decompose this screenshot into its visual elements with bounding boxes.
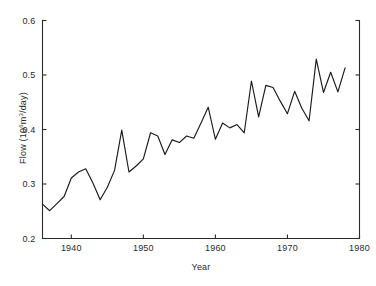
x-tick-label: 1970 [277, 243, 298, 253]
svg-text:Flow (106m3/day): Flow (106m3/day) [18, 92, 28, 164]
y-tick-label: 0.2 [22, 234, 35, 244]
y-axis-title-middle: m [18, 117, 28, 125]
y-axis-title: Flow (106m3/day) [18, 92, 28, 164]
chart-figure: 0.20.30.40.50.6 19401950196019701980 Flo… [0, 0, 376, 286]
x-axis-title: Year [192, 262, 211, 272]
y-axis-ticks-right [356, 21, 360, 239]
x-tick-label: 1940 [61, 243, 82, 253]
x-axis-ticks [71, 235, 359, 239]
y-tick-label: 0.3 [22, 179, 35, 189]
flow-series-line [43, 59, 346, 211]
y-tick-label: 0.6 [22, 16, 35, 26]
y-axis-title-prefix: Flow (10 [18, 128, 28, 164]
line-chart: 0.20.30.40.50.6 19401950196019701980 Flo… [0, 0, 376, 286]
x-tick-label: 1980 [349, 243, 370, 253]
y-axis-title-suffix: /day) [18, 92, 28, 113]
y-tick-label: 0.5 [22, 70, 35, 80]
x-axis-tick-labels: 19401950196019701980 [61, 243, 370, 253]
x-tick-label: 1960 [205, 243, 226, 253]
x-tick-label: 1950 [133, 243, 154, 253]
